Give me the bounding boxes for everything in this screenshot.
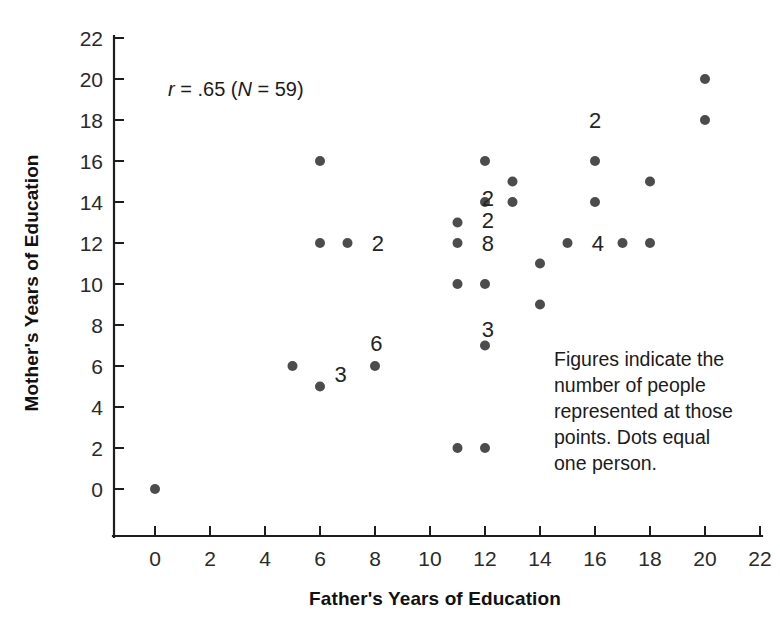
- y-tick: 12: [80, 232, 124, 255]
- data-point: [535, 300, 545, 310]
- data-point: [508, 197, 518, 207]
- data-point: [453, 279, 463, 289]
- y-tick-label: 6: [91, 355, 103, 378]
- data-point: [453, 238, 463, 248]
- x-tick: 0: [149, 526, 161, 570]
- x-tick: 10: [418, 526, 441, 570]
- y-tick-label: 0: [91, 478, 103, 501]
- x-tick-label: 18: [638, 547, 661, 570]
- y-tick: 14: [80, 191, 124, 214]
- data-point: [645, 238, 655, 248]
- y-tick-label: 22: [80, 27, 103, 50]
- count-label: 2: [482, 208, 494, 233]
- data-point: [453, 218, 463, 228]
- y-axis-ticks: 22 20 18 16 14 12 10 8 6 4 2 0: [80, 27, 124, 501]
- count-label: 2: [482, 186, 494, 211]
- count-labels-layer: 326382242: [335, 108, 604, 387]
- x-tick: 8: [369, 526, 381, 570]
- x-tick-label: 22: [748, 547, 771, 570]
- data-point: [343, 238, 353, 248]
- axes-group: [113, 36, 762, 537]
- x-tick-label: 8: [369, 547, 381, 570]
- x-tick-label: 14: [528, 547, 552, 570]
- n-symbol: N: [237, 78, 252, 100]
- data-point: [700, 115, 710, 125]
- x-tick-label: 2: [204, 547, 216, 570]
- data-point: [590, 197, 600, 207]
- data-point: [480, 156, 490, 166]
- count-label: 4: [592, 231, 604, 256]
- data-point: [315, 156, 325, 166]
- y-tick-label: 10: [80, 273, 103, 296]
- y-tick-label: 16: [80, 150, 103, 173]
- x-tick: 20: [693, 526, 716, 570]
- correlation-annotation: r = .65 (N = 59): [168, 78, 304, 100]
- count-label: 3: [335, 362, 347, 387]
- data-point: [480, 443, 490, 453]
- data-point: [453, 443, 463, 453]
- y-tick-label: 4: [91, 396, 103, 419]
- y-tick: 2: [91, 437, 124, 460]
- y-tick: 4: [91, 396, 124, 419]
- y-tick-label: 20: [80, 68, 103, 91]
- x-axis-title: Father's Years of Education: [309, 588, 561, 609]
- x-tick: 12: [473, 526, 496, 570]
- y-tick: 0: [91, 478, 124, 501]
- x-tick-label: 10: [418, 547, 441, 570]
- data-point: [700, 74, 710, 84]
- note-line: one person.: [554, 452, 657, 474]
- data-point: [370, 361, 380, 371]
- count-label: 3: [482, 317, 494, 342]
- data-point: [618, 238, 628, 248]
- note-line: Figures indicate the: [554, 348, 724, 370]
- y-tick: 6: [91, 355, 124, 378]
- y-tick: 8: [91, 314, 124, 337]
- x-axis-ticks: 0 2 4 6 8 10 12 14 16 18 20 22: [149, 526, 772, 570]
- data-point: [645, 177, 655, 187]
- data-point: [288, 361, 298, 371]
- y-tick-label: 8: [91, 314, 103, 337]
- count-label: 2: [372, 231, 384, 256]
- y-tick: 16: [80, 150, 124, 173]
- x-tick: 14: [528, 526, 552, 570]
- x-tick: 16: [583, 526, 606, 570]
- n-value: = 59): [252, 78, 304, 100]
- count-label: 6: [370, 331, 382, 356]
- x-tick: 6: [314, 526, 326, 570]
- y-tick: 22: [80, 27, 124, 50]
- y-tick-label: 14: [80, 191, 104, 214]
- chart-canvas: 22 20 18 16 14 12 10 8 6 4 2 0 0 2 4 6 8…: [0, 0, 780, 623]
- data-point: [150, 484, 160, 494]
- x-tick-label: 4: [259, 547, 271, 570]
- data-point: [480, 279, 490, 289]
- y-tick-label: 18: [80, 109, 103, 132]
- note-line: number of people: [554, 374, 706, 396]
- note-line: points. Dots equal: [554, 426, 710, 448]
- data-point: [315, 238, 325, 248]
- x-tick-label: 12: [473, 547, 496, 570]
- y-tick-label: 2: [91, 437, 103, 460]
- x-tick: 18: [638, 526, 661, 570]
- data-point: [563, 238, 573, 248]
- count-label: 8: [482, 231, 494, 256]
- y-tick: 20: [80, 68, 124, 91]
- data-point: [508, 177, 518, 187]
- r-value: = .65 (: [175, 78, 238, 100]
- y-tick: 10: [80, 273, 124, 296]
- note-line: represented at those: [554, 400, 733, 422]
- x-tick: 22: [748, 526, 771, 570]
- x-tick-label: 20: [693, 547, 716, 570]
- y-axis-title: Mother's Years of Education: [21, 154, 42, 411]
- x-tick: 4: [259, 526, 271, 570]
- y-tick-label: 12: [80, 232, 103, 255]
- count-label: 2: [589, 108, 601, 133]
- data-point: [535, 259, 545, 269]
- data-point: [590, 156, 600, 166]
- x-tick-label: 0: [149, 547, 161, 570]
- x-tick-label: 6: [314, 547, 326, 570]
- data-point: [315, 382, 325, 392]
- y-tick: 18: [80, 109, 124, 132]
- x-tick: 2: [204, 526, 216, 570]
- note-block: Figures indicate the number of people re…: [554, 348, 733, 474]
- x-tick-label: 16: [583, 547, 606, 570]
